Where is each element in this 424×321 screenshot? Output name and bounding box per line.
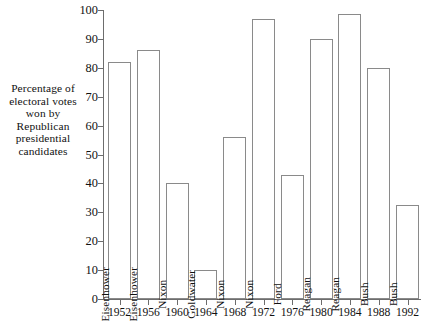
bar-label: Ford (281, 283, 292, 305)
bar: Bush (367, 68, 390, 299)
x-axis-tick-mark (292, 300, 293, 305)
x-axis-tick-mark (350, 300, 351, 305)
bar-label: Bush (396, 282, 407, 306)
y-axis-tick-label: 70 (72, 90, 98, 102)
bar-label: Nixon (223, 280, 234, 309)
y-axis-tick-label: 90 (72, 33, 98, 45)
x-axis-tick-mark (264, 300, 265, 305)
x-axis-tick-mark (235, 300, 236, 305)
bar: Nixon (223, 137, 246, 299)
bar-label-text: Nixon (214, 280, 225, 309)
bar-label-text: Bush (387, 282, 398, 306)
y-axis-tick-label: 100 (72, 4, 98, 16)
y-axis-tick-label: 30 (72, 206, 98, 218)
plot-area: EisenhowerEisenhowerNixonGoldwaterNixonN… (103, 10, 421, 299)
y-axis-tick-labels: 0102030405060708090100 (70, 0, 98, 319)
bar: Eisenhower (108, 62, 131, 299)
bar-label-text: Bush (358, 282, 369, 306)
bar-label-text: Ford (272, 283, 283, 305)
x-axis-tick-mark (148, 300, 149, 305)
bar-label-text: Nixon (243, 280, 254, 309)
x-axis-tick-mark (177, 300, 178, 305)
bar: Reagan (310, 39, 333, 299)
x-axis-tick-mark (408, 300, 409, 305)
y-axis-tick-label: 0 (72, 293, 98, 305)
x-axis-tick-mark (206, 300, 207, 305)
bar: Nixon (252, 19, 275, 299)
y-axis-tick-label: 50 (72, 148, 98, 160)
x-axis-tick-mark (120, 300, 121, 305)
bar: Eisenhower (137, 50, 160, 299)
y-axis-tick-label: 80 (72, 62, 98, 74)
bar-label: Nixon (166, 280, 177, 309)
bar-label-text: Nixon (157, 280, 168, 309)
bar-label: Nixon (252, 280, 263, 309)
bar-label: Bush (367, 282, 378, 306)
x-axis-tick-mark (379, 300, 380, 305)
y-axis-tick-label: 20 (72, 235, 98, 247)
y-axis-tick-label: 60 (72, 119, 98, 131)
x-axis-tick-mark (321, 300, 322, 305)
x-axis-tick-label: 1992 (391, 307, 424, 319)
bar: Reagan (338, 14, 361, 299)
y-axis-tick-label: 10 (72, 264, 98, 276)
bar: Bush (396, 205, 419, 299)
y-axis-tick-label: 40 (72, 177, 98, 189)
